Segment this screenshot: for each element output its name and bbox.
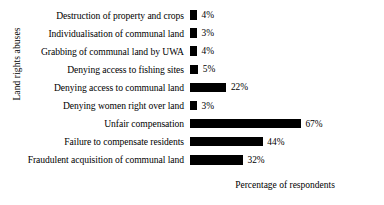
bar-track: 5% xyxy=(190,64,380,74)
bar-chart-figure: Land rights abuses Destruction of proper… xyxy=(0,0,384,205)
bar-value-label: 32% xyxy=(243,155,265,165)
bar-track: 3% xyxy=(190,101,380,111)
bar-value-label: 3% xyxy=(197,101,214,111)
category-label: Denying access to fishing sites xyxy=(22,64,190,75)
bar-track: 22% xyxy=(190,82,380,92)
bar-row: Individualisation of communal land 3% xyxy=(22,24,380,42)
bar xyxy=(190,83,226,93)
category-label: Individualisation of communal land xyxy=(22,28,190,39)
bar-row: Fraudulent acquisition of communal land … xyxy=(22,151,380,169)
category-label: Failure to compensate residents xyxy=(22,136,190,147)
bar-track: 4% xyxy=(190,10,380,20)
bar xyxy=(190,119,301,129)
bar-value-label: 22% xyxy=(226,82,248,92)
category-label: Denying access to communal land xyxy=(22,82,190,93)
bar-row: Denying women right over land 3% xyxy=(22,96,380,114)
bar-row: Failure to compensate residents 44% xyxy=(22,133,380,151)
bar-track: 4% xyxy=(190,46,380,56)
category-label: Unfair compensation xyxy=(22,118,190,129)
bar xyxy=(190,46,197,56)
bar xyxy=(190,101,197,111)
bar-row: Grabbing of communal land by UWA 4% xyxy=(22,42,380,60)
category-label: Grabbing of communal land by UWA xyxy=(22,46,190,57)
bar xyxy=(190,10,197,20)
bar-value-label: 44% xyxy=(263,137,285,147)
bar-value-label: 67% xyxy=(301,119,323,129)
bar-value-label: 4% xyxy=(197,10,214,20)
category-label: Fraudulent acquisition of communal land xyxy=(22,154,190,165)
bar-track: 67% xyxy=(190,119,380,129)
bar-track: 44% xyxy=(190,137,380,147)
x-axis-title: Percentage of respondents xyxy=(190,180,380,190)
category-label: Destruction of property and crops xyxy=(22,10,190,21)
bar-row: Unfair compensation 67% xyxy=(22,115,380,133)
bar-value-label: 5% xyxy=(198,64,215,74)
bar xyxy=(190,65,198,75)
bar-track: 3% xyxy=(190,28,380,38)
bar-value-label: 3% xyxy=(197,28,214,38)
bar-track: 32% xyxy=(190,155,380,165)
bar-row: Destruction of property and crops 4% xyxy=(22,6,380,24)
bar xyxy=(190,155,243,165)
bar xyxy=(190,137,263,147)
category-label: Denying women right over land xyxy=(22,100,190,111)
bar-row: Denying access to fishing sites 5% xyxy=(22,60,380,78)
bar-row: Denying access to communal land 22% xyxy=(22,78,380,96)
bar xyxy=(190,28,197,38)
bar-value-label: 4% xyxy=(197,46,214,56)
plot-area: Destruction of property and crops 4% Ind… xyxy=(22,6,380,172)
